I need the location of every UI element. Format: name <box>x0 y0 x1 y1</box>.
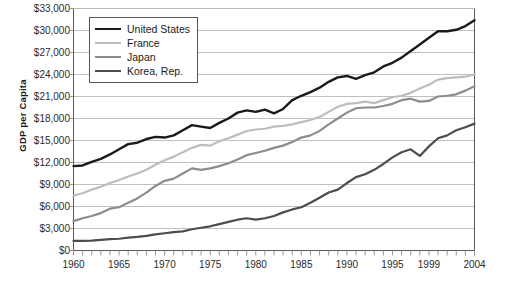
legend-swatch-france <box>95 42 121 44</box>
series-line-france <box>74 75 475 196</box>
legend-item-korea-rep: Korea, Rep. <box>95 64 190 78</box>
legend-label-japan: Japan <box>127 51 156 63</box>
legend-label-france: France <box>127 37 160 49</box>
gdp-per-capita-line-chart: GDP per Capita $33,000$30,000$27,000$24,… <box>0 0 507 282</box>
plot-area <box>0 0 507 282</box>
series-line-japan <box>74 86 475 221</box>
legend-item-japan: Japan <box>95 50 190 64</box>
legend-swatch-japan <box>95 56 121 58</box>
legend-item-united-states: United States <box>95 22 190 36</box>
legend-swatch-korea-rep <box>95 70 121 72</box>
chart-legend: United States France Japan Korea, Rep. <box>89 17 198 83</box>
legend-item-france: France <box>95 36 190 50</box>
legend-label-united-states: United States <box>127 23 190 35</box>
legend-swatch-united-states <box>95 28 121 30</box>
series-line-korea-rep <box>74 124 475 241</box>
legend-label-korea-rep: Korea, Rep. <box>127 65 183 77</box>
